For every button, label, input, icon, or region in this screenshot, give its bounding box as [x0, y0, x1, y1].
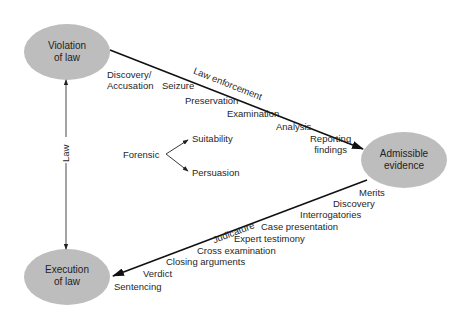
- step-cross-examination: Cross examination: [197, 245, 276, 256]
- edge-law-label: Law: [60, 145, 71, 162]
- node-admissible-line2: evidence: [361, 160, 447, 172]
- node-violation-label: Violation of law: [24, 40, 110, 64]
- step-closing-arguments: Closing arguments: [166, 256, 245, 267]
- node-execution-label: Execution of law: [24, 264, 110, 288]
- node-execution-line1: Execution: [24, 264, 110, 276]
- step-discovery-line2: Accusation: [107, 80, 153, 91]
- step-case-presentation: Case presentation: [261, 221, 338, 232]
- node-admissible-line1: Admissible: [361, 148, 447, 160]
- step-reporting-findings: Reporting findings: [310, 133, 351, 155]
- step-reporting-line1: Reporting: [310, 133, 351, 144]
- forensic-persuasion: Persuasion: [192, 167, 240, 178]
- step-preservation: Preservation: [185, 95, 238, 106]
- step-expert-testimony: Expert testimony: [234, 233, 305, 244]
- step-analysis: Analysis: [276, 121, 311, 132]
- node-violation-line1: Violation: [24, 40, 110, 52]
- step-discovery: Discovery: [333, 198, 375, 209]
- forensic-label: Forensic: [123, 149, 159, 160]
- step-verdict: Verdict: [143, 268, 172, 279]
- node-violation-line2: of law: [24, 52, 110, 64]
- step-reporting-line2: findings: [310, 144, 351, 155]
- edge-forensic-persuasion: [166, 154, 188, 171]
- edge-forensic-suitability: [166, 140, 188, 154]
- step-interrogatories: Interrogatories: [300, 209, 361, 220]
- step-merits: Merits: [359, 187, 385, 198]
- step-examination: Examination: [227, 108, 279, 119]
- node-execution-line2: of law: [24, 276, 110, 288]
- step-seizure: Seizure: [162, 80, 194, 91]
- node-admissible-label: Admissible evidence: [361, 148, 447, 172]
- step-sentencing: Sentencing: [114, 281, 162, 292]
- forensic-suitability: Suitability: [192, 133, 233, 144]
- step-discovery-line1: Discovery/: [107, 69, 153, 80]
- step-discovery-accusation: Discovery/ Accusation: [107, 69, 153, 91]
